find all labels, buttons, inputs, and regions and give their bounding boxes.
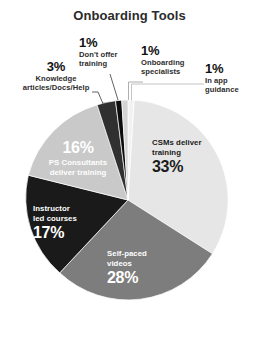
callout-onboarding-specialists: 1% Onboarding specialists (141, 44, 201, 77)
callout-specialists-label-line2: specialists (141, 67, 201, 77)
callout-dont-offer-training: 1% Don't offer training (79, 36, 141, 69)
callout-dont-offer-label-line2: training (79, 59, 141, 69)
slice-label-csms-percent: 33% (152, 157, 222, 177)
slice-label-instructor-percent: 17% (33, 223, 107, 243)
slice-label-ps-line1: PS Consultants (36, 158, 120, 168)
leader-lines (92, 74, 204, 106)
slice-label-instructor-line1: Instructor (33, 204, 107, 214)
slice-label-ps-consultants: 16% PS Consultants deliver training (36, 138, 120, 177)
slice-label-self-paced-line2: videos (107, 259, 183, 269)
callout-knowledge-label-line1: Knowledge (6, 74, 106, 84)
slice-label-ps-line2: deliver training (36, 168, 120, 178)
slice-label-csms-deliver-training: CSMs deliver training 33% (152, 138, 222, 177)
callout-dont-offer-percent: 1% (79, 36, 141, 50)
slice-label-self-paced-percent: 28% (107, 268, 183, 288)
slice-label-csms-line2: training (152, 148, 222, 158)
pie-chart-figure: Onboarding Tools (0, 0, 259, 339)
leader-line-in-app-guidance (132, 84, 205, 101)
callout-in-app-guidance: 1% In app guidance (205, 62, 259, 95)
slice-label-self-paced-videos: Self-paced videos 28% (107, 249, 183, 288)
slice-label-self-paced-line1: Self-paced (107, 249, 183, 259)
leader-line-onboarding-specialists (129, 82, 144, 100)
slice-label-csms-line1: CSMs deliver (152, 138, 222, 148)
callout-in-app-label-line1: In app (205, 76, 259, 86)
slice-label-instructor-led-courses: Instructor led courses 17% (33, 204, 107, 243)
slice-label-ps-percent: 16% (36, 138, 120, 158)
callout-knowledge-label-line2: articles/Docs/Help (6, 83, 106, 93)
callout-in-app-label-line2: guidance (205, 85, 259, 95)
callout-specialists-percent: 1% (141, 44, 201, 58)
callout-dont-offer-label-line1: Don't offer (79, 50, 141, 60)
callout-specialists-label-line1: Onboarding (141, 58, 201, 68)
slice-label-instructor-line2: led courses (33, 214, 107, 224)
callout-in-app-percent: 1% (205, 62, 259, 76)
leader-line-dont-offer (110, 74, 118, 100)
